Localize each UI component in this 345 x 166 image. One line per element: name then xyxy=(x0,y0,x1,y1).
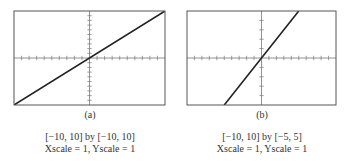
panel-a-graph xyxy=(14,11,165,105)
panel-b-label: (b) xyxy=(242,109,282,120)
panel-b-scale-text: Xscale = 1, Yscale = 1 xyxy=(192,143,332,154)
panel-a-label: (a) xyxy=(70,109,110,120)
panel-a-scale-text: Xscale = 1, Yscale = 1 xyxy=(20,143,160,154)
panel-b-graph xyxy=(187,11,336,105)
panel-a-window-text: [−10, 10] by [−10, 10] xyxy=(20,131,160,142)
panel-b-window-text: [−10, 10] by [−5, 5] xyxy=(192,131,332,142)
